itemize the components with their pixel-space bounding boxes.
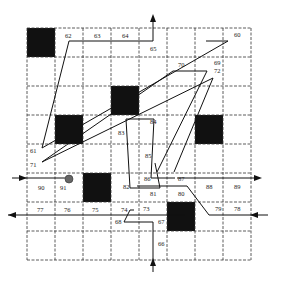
cell-label: 61 [30, 147, 37, 154]
obstacle-cell [195, 115, 223, 144]
arrow-right-exit-icon [254, 175, 262, 181]
cell-label: 80 [178, 190, 185, 197]
cell-label: 73 [143, 205, 150, 212]
cell-label: 77 [37, 206, 44, 213]
arrow-right-entry-icon [19, 175, 27, 181]
cell-label: 85 [145, 152, 152, 159]
robot-marker-icon [65, 175, 73, 183]
cell-label: 74 [121, 206, 128, 213]
cell-label: 89 [234, 183, 241, 190]
arrow-up-top-icon [150, 14, 156, 22]
cell-label: 64 [122, 32, 129, 39]
grid-path-diagram: 6263646560706972848361718586879091828889… [0, 0, 281, 285]
cell-label: 91 [60, 184, 67, 191]
cell-label: 66 [158, 240, 165, 247]
obstacle-cell [27, 28, 55, 57]
path-lower-right [124, 210, 153, 272]
cell-label: 90 [38, 184, 45, 191]
cell-label: 67 [158, 218, 165, 225]
cell-label: 65 [150, 45, 157, 52]
cell-label: 62 [65, 32, 72, 39]
cell-label: 63 [94, 32, 101, 39]
cell-label: 71 [30, 161, 37, 168]
route-paths [8, 41, 256, 272]
cell-label: 87 [178, 175, 185, 182]
cell-label: 78 [234, 205, 241, 212]
position-marker [65, 175, 73, 183]
cell-label: 69 [214, 59, 221, 66]
cell-label: 72 [214, 67, 221, 74]
cell-label: 70 [178, 61, 185, 68]
path-center-box [126, 119, 175, 178]
cell-label: 75 [92, 206, 99, 213]
obstacle-cell [83, 173, 111, 202]
cell-label: 88 [206, 183, 213, 190]
cell-label: 68 [115, 218, 122, 225]
obstacle-cells [27, 28, 223, 231]
cell-label: 81 [150, 190, 157, 197]
cell-label: 83 [118, 129, 125, 136]
cell-label: 79 [215, 205, 222, 212]
cell-label: 60 [234, 31, 241, 38]
cell-label: 86 [144, 175, 151, 182]
obstacle-cell [55, 115, 83, 144]
cell-label: 76 [64, 206, 71, 213]
obstacle-cell [167, 202, 195, 231]
cell-label: 84 [150, 118, 157, 125]
arrow-up-bottom-icon [150, 258, 156, 266]
cell-label: 82 [123, 183, 130, 190]
arrow-left-exit-icon [8, 212, 16, 218]
